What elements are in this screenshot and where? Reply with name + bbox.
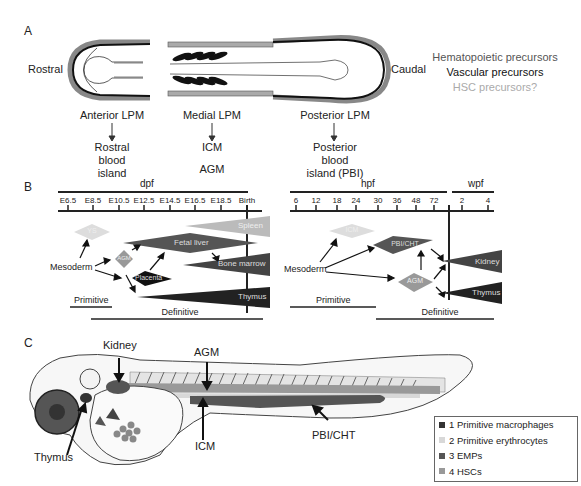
medial-fate-agm: AGM	[172, 163, 252, 175]
spleen-label: Spleen	[238, 221, 263, 230]
posterior-lpm-label: Posterior LPM	[290, 109, 380, 121]
anterior-fate-1: Rostral	[72, 141, 152, 153]
tick-6: 6	[286, 196, 306, 205]
definitive-label-mouse: Definitive	[140, 307, 220, 317]
tick-72: 72	[424, 196, 444, 205]
thymus-label-mouse: Thymus	[238, 292, 266, 301]
swatch-icon	[439, 437, 445, 443]
legend-item-macrophages: 1 Primitive macrophages	[435, 417, 577, 433]
kidney-label-c: Kidney	[103, 339, 137, 351]
definitive-label-zf: Definitive	[400, 307, 480, 317]
thymus-label-zf: Thymus	[472, 288, 500, 297]
tick-36: 36	[387, 196, 407, 205]
tick-birth: Birth	[232, 196, 262, 205]
wpf-axis-title: wpf	[468, 178, 484, 189]
placenta-label: Placenta	[135, 274, 162, 281]
legend-item-emps: 3 EMPs	[435, 448, 577, 464]
icm-label: ICM	[340, 226, 364, 233]
tick-4wpf: 4	[478, 196, 498, 205]
primitive-label-mouse: Primitive	[74, 295, 109, 305]
tick-30: 30	[368, 196, 388, 205]
key-hematopoietic: Hematopoietic precursors	[430, 51, 560, 63]
panel-c-label: C	[24, 336, 33, 350]
key-vascular: Vascular precursors	[430, 66, 560, 78]
agm-label-c: AGM	[194, 346, 219, 358]
key-hsc: HSC precursors?	[430, 81, 560, 93]
tick-48: 48	[406, 196, 426, 205]
medial-lpm-cells	[172, 50, 229, 87]
thymus-label-c: Thymus	[34, 451, 73, 463]
legend-item-hscs: 4 HSCs	[435, 464, 577, 480]
cell-type-legend: 1 Primitive macrophages 2 Primitive eryt…	[434, 416, 578, 482]
swatch-icon	[439, 422, 445, 428]
ys-label: YS	[80, 227, 104, 234]
primitive-label-zf: Primitive	[316, 295, 351, 305]
swatch-icon	[439, 453, 445, 459]
mesoderm-label-mouse: Mesoderm	[50, 262, 93, 272]
anterior-fate-2: blood	[72, 154, 152, 166]
fetal-liver-label: Fetal liver	[174, 238, 209, 247]
tick-24: 24	[346, 196, 366, 205]
icm-label-c: ICM	[195, 440, 215, 452]
kidney-label: Kidney	[475, 257, 499, 266]
hpf-axis-title: hpf	[361, 178, 375, 189]
mesoderm-label-zf: Mesoderm	[284, 264, 327, 274]
pbi-cht-label-c: PBI/CHT	[312, 429, 355, 441]
agm-label-mouse: AGM	[113, 255, 135, 261]
tick-18: 18	[327, 196, 347, 205]
legend-item-erythrocytes: 2 Primitive erythrocytes	[435, 433, 577, 449]
panel-b-label: B	[24, 180, 32, 194]
pbi-cht-label: PBI/CHT	[385, 240, 425, 247]
tick-12: 12	[306, 196, 326, 205]
bone-marrow-label: Bone marrow	[218, 259, 266, 268]
rostral-label: Rostral	[28, 63, 63, 75]
swatch-icon	[439, 468, 445, 474]
zebrafish-larva-drawing	[30, 354, 473, 464]
medial-lpm-label: Medial LPM	[172, 109, 252, 121]
posterior-fate-1: Posterior	[290, 141, 380, 153]
caudal-label: Caudal	[391, 63, 426, 75]
medial-fate-icm: ICM	[172, 141, 252, 153]
anterior-lpm-label: Anterior LPM	[72, 109, 152, 121]
tick-2wpf: 2	[452, 196, 472, 205]
posterior-fate-2: blood	[290, 154, 380, 166]
dpf-axis-title: dpf	[140, 178, 154, 189]
agm-label-zf: AGM	[403, 277, 427, 284]
